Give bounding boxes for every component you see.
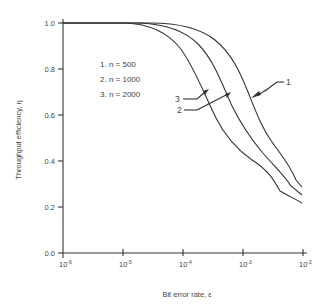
y-tick-label: 0.0 <box>45 249 55 258</box>
annotation-2: 2 <box>177 92 231 115</box>
annotation-1: 1 <box>251 77 291 98</box>
curve-1-n500 <box>63 23 302 187</box>
y-axis-title: Throughput efficiency, η <box>14 100 23 179</box>
svg-text:1: 1 <box>286 77 291 87</box>
y-tick-label: 0.8 <box>45 65 55 74</box>
y-tick-label: 1.0 <box>45 19 55 28</box>
legend-entry: 1. n = 500 <box>100 60 136 69</box>
y-tick-label: 0.4 <box>45 157 55 166</box>
x-tick-label: 10-6 <box>59 259 72 269</box>
annotation-3: 3 <box>175 89 209 104</box>
y-ticks <box>58 23 63 253</box>
x-tick-labels: 10-6 10-5 10-4 10-3 10-2 <box>59 259 312 269</box>
y-tick-labels: 0.0 0.2 0.4 0.6 0.8 1.0 <box>45 19 55 258</box>
y-tick-label: 0.6 <box>45 111 55 120</box>
x-tick-label: 10-3 <box>239 259 252 269</box>
chart-canvas: 0.0 0.2 0.4 0.6 0.8 1.0 10-6 10-5 10-4 1… <box>0 0 324 307</box>
x-tick-label: 10-5 <box>119 259 132 269</box>
legend-entry: 2. n = 1000 <box>100 75 141 84</box>
legend: 1. n = 500 2. n = 1000 3. n = 2000 <box>100 60 141 99</box>
x-axis-title: Bit error rate, ε <box>162 290 212 299</box>
svg-text:2: 2 <box>177 105 182 115</box>
legend-entry: 3. n = 2000 <box>100 90 141 99</box>
curve-2-n1000 <box>63 23 302 195</box>
y-tick-label: 0.2 <box>45 203 55 212</box>
curve-3-n2000 <box>63 23 302 203</box>
svg-text:3: 3 <box>175 94 180 104</box>
x-tick-label: 10-2 <box>299 259 312 269</box>
x-tick-label: 10-4 <box>179 259 192 269</box>
